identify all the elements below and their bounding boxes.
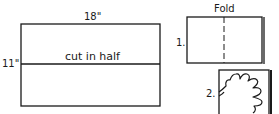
hand-outline-icon xyxy=(219,74,262,113)
step2-number: 2. xyxy=(206,89,216,99)
height-label: 11" xyxy=(2,59,19,69)
width-label: 18" xyxy=(84,12,101,22)
paper-sheet xyxy=(21,24,160,106)
folded-sheet xyxy=(219,70,269,114)
diagram-canvas xyxy=(0,0,279,114)
fold-title: Fold xyxy=(214,4,235,14)
cut-label: cut in half xyxy=(65,52,120,62)
step1-number: 1. xyxy=(176,38,186,48)
